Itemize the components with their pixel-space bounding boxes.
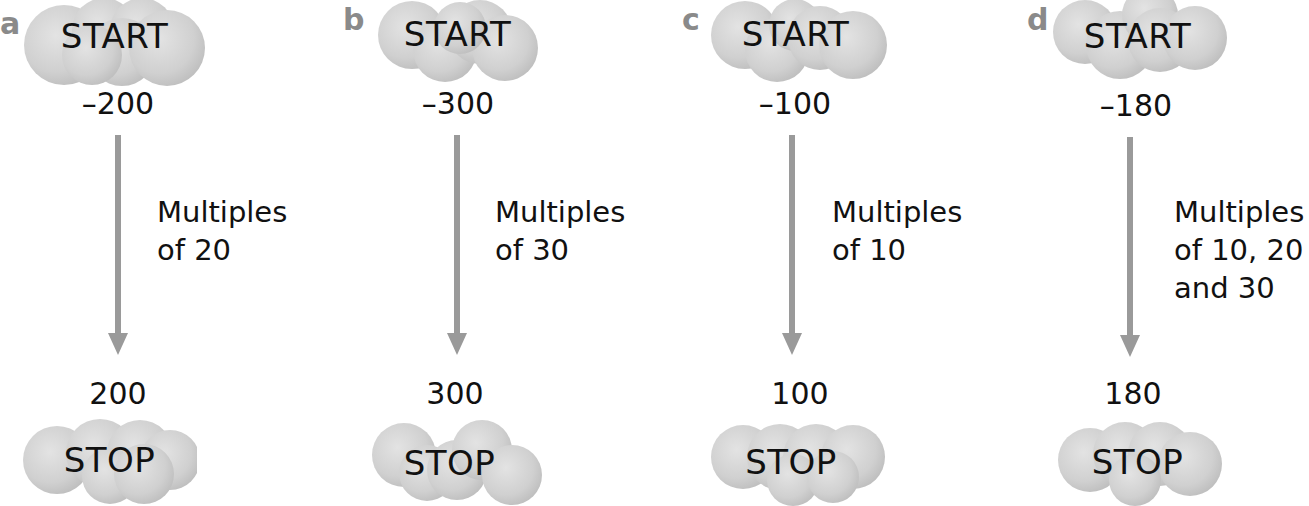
arrow-down-icon [106, 135, 130, 357]
rule-line: Multiples [157, 193, 287, 231]
stop-cloud: STOP [1050, 422, 1225, 506]
rule-text: Multiples of 10, 20 and 30 [1174, 193, 1304, 307]
start-value: –100 [725, 86, 865, 121]
rule-line: of 30 [495, 231, 625, 269]
start-label: START [22, 16, 207, 56]
stop-value: 200 [48, 376, 188, 411]
start-value: –180 [1066, 88, 1206, 123]
rule-line: of 10, 20 [1174, 231, 1304, 269]
panel-a: a START –200 Multiples of 20 200 STOP [0, 0, 330, 506]
rule-text: Multiples of 30 [495, 193, 625, 269]
start-cloud: START [705, 0, 890, 85]
stop-label: STOP [694, 442, 888, 482]
start-value: –300 [388, 86, 528, 121]
stop-value: 100 [730, 376, 870, 411]
rule-line: Multiples [1174, 193, 1304, 231]
rule-line: and 30 [1174, 269, 1304, 307]
start-cloud: START [370, 0, 545, 85]
panel-letter: c [682, 2, 700, 37]
start-value: –200 [48, 86, 188, 121]
arrow-down-icon [445, 135, 469, 357]
arrow-down-icon [780, 135, 804, 357]
stop-label: STOP [372, 443, 527, 483]
stop-label: STOP [22, 440, 197, 480]
panel-c: c START –100 Multiples of 10 100 STOP [680, 0, 1010, 506]
arrow-down-icon [1118, 137, 1142, 359]
rule-line: Multiples [832, 193, 962, 231]
stop-cloud: STOP [372, 415, 547, 506]
stop-cloud: STOP [22, 418, 197, 506]
start-cloud: START [22, 0, 207, 88]
panel-d: d START –180 Multiples of 10, 20 and 30 … [1020, 0, 1309, 506]
rule-line: Multiples [495, 193, 625, 231]
start-label: START [370, 14, 545, 54]
panel-letter: a [0, 6, 20, 41]
stop-cloud: STOP [708, 422, 888, 506]
rule-line: of 20 [157, 231, 287, 269]
rule-text: Multiples of 20 [157, 193, 287, 269]
stop-value: 180 [1063, 376, 1203, 411]
start-cloud: START [1050, 0, 1230, 82]
panel-b: b START –300 Multiples of 30 300 STOP [340, 0, 670, 506]
stop-label: STOP [1050, 442, 1225, 482]
panel-letter: b [343, 2, 364, 37]
start-label: START [701, 14, 890, 54]
rule-line: of 10 [832, 231, 962, 269]
stop-value: 300 [385, 376, 525, 411]
rule-text: Multiples of 10 [832, 193, 962, 269]
start-label: START [1045, 16, 1230, 56]
